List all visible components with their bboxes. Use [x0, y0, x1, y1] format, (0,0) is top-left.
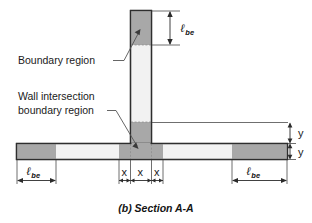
lbe-subscript-right: be — [251, 171, 260, 180]
dim-label-y-upper: y — [298, 127, 304, 139]
arrowhead-right-lbe-l — [232, 178, 238, 183]
vertical-wall-boundary-region — [131, 11, 151, 45]
arrowhead-left-lbe-l — [17, 178, 23, 183]
figure-caption: (b) Section A-A — [118, 202, 193, 214]
boundary-region-label: Boundary region — [18, 54, 95, 66]
wall-intersection-label-line1: Wall intersection — [18, 90, 95, 102]
dim-label-right-lbe: ℓbe — [246, 165, 260, 180]
figure-drawing: ℓbe Boundary region Wall intersection bo… — [0, 0, 312, 223]
dim-label-y-lower: y — [298, 146, 304, 158]
annotation-wall-intersection: Wall intersection boundary region — [18, 90, 139, 149]
wall-intersection-label-line2: boundary region — [18, 104, 94, 116]
dim-label-vertical-lbe: ℓbe — [180, 22, 194, 37]
arrowhead-y-upper-top — [288, 123, 293, 128]
lbe-symbol-v: ℓ — [180, 22, 185, 34]
annotation-boundary-region: Boundary region — [18, 29, 141, 66]
flange-right-boundary-region — [232, 144, 287, 159]
arrowhead-y-upper-bottom — [288, 138, 293, 143]
lbe-subscript-v: be — [185, 28, 194, 37]
arrowhead-up — [167, 11, 172, 17]
dimension-right-lbe: ℓbe — [232, 160, 287, 184]
dimension-vertical-lbe: ℓbe — [152, 11, 194, 45]
lbe-symbol-left: ℓ — [26, 165, 31, 177]
dimension-left-lbe: ℓbe — [17, 160, 56, 184]
dim-label-x-2: x — [138, 166, 144, 178]
lbe-symbol-right: ℓ — [246, 165, 251, 177]
arrowhead-x-t3 — [159, 179, 163, 183]
dimension-intersection-x: x x x — [119, 160, 163, 184]
arrowhead-y-lower-top — [288, 144, 293, 149]
arrowhead-x-t2b — [152, 179, 156, 183]
arrowhead-x-t0 — [119, 179, 123, 183]
arrowhead-x-t2a — [148, 179, 152, 183]
dim-label-x-1: x — [122, 166, 128, 178]
arrowhead-x-t1b — [131, 179, 135, 183]
section-aa-figure: ℓbe Boundary region Wall intersection bo… — [0, 0, 312, 223]
lbe-subscript-left: be — [31, 171, 40, 180]
dim-label-x-3: x — [154, 166, 160, 178]
flange-left-boundary-region — [17, 144, 56, 159]
wall-cross-section — [17, 11, 288, 160]
arrowhead-y-lower-bottom — [288, 155, 293, 160]
dim-label-left-lbe: ℓbe — [26, 165, 40, 180]
arrowhead-down — [167, 39, 172, 45]
arrowhead-right-lbe-r — [281, 178, 287, 183]
arrowhead-x-t1a — [127, 179, 131, 183]
flange-intersection-boundary-region — [119, 144, 163, 159]
arrowhead-left-lbe-r — [50, 178, 56, 183]
